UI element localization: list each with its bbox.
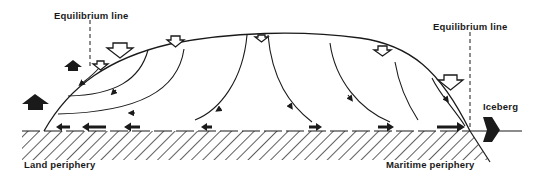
basal-arrow-left-2	[82, 123, 106, 132]
basal-arrow-right-2	[378, 123, 394, 132]
accumulation-arrow-large-left	[107, 43, 133, 58]
maritime-periphery-label: Maritime periphery	[386, 159, 475, 170]
basal-arrow-left-1	[56, 123, 70, 131]
ablation-arrow-small-left	[64, 60, 82, 71]
equilibrium-line-left-label: Equilibrium line	[54, 10, 128, 21]
basal-arrow-right-1	[309, 123, 322, 131]
ablation-arrow-large-left	[22, 94, 49, 110]
ice-sheet-diagram: Equilibrium line Equilibrium line Iceber…	[0, 0, 542, 181]
equilibrium-line-right-label: Equilibrium line	[433, 21, 507, 32]
accumulation-arrow-2	[167, 36, 184, 47]
accumulation-arrows	[93, 35, 463, 90]
land-periphery-label: Land periphery	[24, 159, 95, 170]
accumulation-arrow-center	[255, 35, 268, 42]
bedrock-hatch	[22, 131, 490, 162]
iceberg-label: Iceberg	[483, 101, 518, 112]
basal-arrow-left-3	[124, 123, 140, 132]
accumulation-arrow-4	[374, 46, 391, 56]
iceberg-arrow-icon	[483, 117, 500, 142]
basal-arrow-left-4	[201, 123, 212, 131]
ablation-arrow-right	[438, 75, 463, 90]
ablation-arrows	[22, 60, 82, 110]
